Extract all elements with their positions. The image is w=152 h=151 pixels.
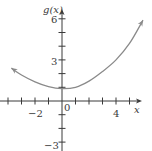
- x-axis-label: x: [134, 105, 140, 115]
- y-tick-label-3: 3: [51, 57, 57, 67]
- x-tick-label-0: 0: [64, 103, 70, 113]
- x-tick-label-4: 4: [113, 109, 119, 119]
- curve-left-arrow-icon: [11, 68, 17, 74]
- graph-canvas: [0, 0, 152, 151]
- x-tick-label-neg2: −2: [28, 109, 43, 119]
- function-curve: [11, 20, 143, 89]
- y-tick-label-6: 6: [51, 15, 57, 25]
- y-tick-label-neg3: −3: [44, 141, 59, 151]
